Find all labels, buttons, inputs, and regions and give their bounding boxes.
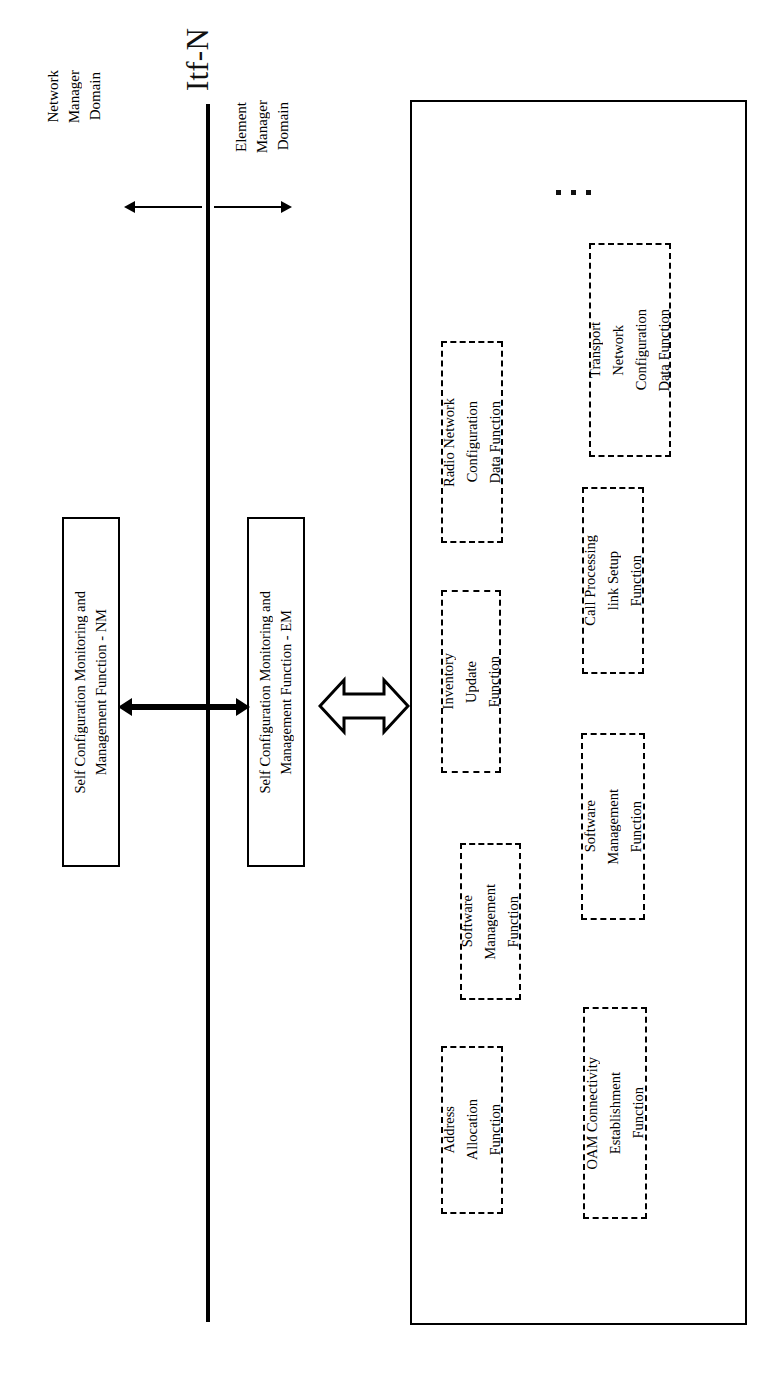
fn-line-2: link Setup bbox=[602, 551, 625, 610]
fn-line-1: Radio Network bbox=[438, 398, 461, 487]
arrow-head-right-icon bbox=[236, 698, 250, 716]
call-processing-link-setup-function-box: Call Processing link Setup Function bbox=[582, 487, 644, 674]
software-management-function-box-2: Software Management Function bbox=[581, 733, 645, 920]
arrow-head-right-icon bbox=[281, 201, 292, 213]
fn-line-2: Management bbox=[479, 884, 502, 960]
ellipsis-dot bbox=[556, 190, 561, 195]
em-domain-line-3: Domain bbox=[273, 102, 294, 150]
fn-line-3: Function bbox=[625, 801, 648, 853]
fn-line-2: Update bbox=[460, 661, 483, 703]
network-manager-domain-arrow-icon bbox=[124, 200, 202, 214]
self-configuration-monitoring-management-nm-box: Self Configuration Monitoring and Manage… bbox=[62, 517, 120, 867]
nm-box-line-2: Management Function - NM bbox=[91, 609, 112, 775]
radio-network-configuration-data-function-box: Radio Network Configuration Data Functio… bbox=[441, 341, 503, 543]
network-manager-domain-label: Network Manager Domain bbox=[43, 70, 106, 123]
em-domain-line-2: Manager bbox=[252, 100, 273, 153]
fn-line-1: Call Processing bbox=[579, 535, 602, 626]
inventory-update-function-box: Inventory Update Function bbox=[441, 590, 501, 773]
arrow-shaft bbox=[128, 704, 240, 710]
em-domain-line-1: Element bbox=[231, 102, 252, 152]
em-box-label: Self Configuration Monitoring and Manage… bbox=[249, 519, 303, 865]
fn-line-3: Function bbox=[483, 656, 506, 708]
fn-line-3: Data Function bbox=[484, 401, 507, 484]
fn-line-3: Function bbox=[625, 555, 648, 607]
em-box-line-2: Management Function - EM bbox=[276, 610, 297, 775]
fn-line-1: Inventory bbox=[437, 653, 460, 709]
element-manager-domain-arrow-icon bbox=[214, 200, 292, 214]
itf-n-label: Itf-N bbox=[180, 28, 217, 91]
nm-domain-line-2: Manager bbox=[64, 70, 85, 123]
nm-domain-line-1: Network bbox=[43, 70, 64, 123]
ellipsis-dots bbox=[556, 190, 591, 195]
arrow-shaft bbox=[132, 206, 202, 208]
nm-domain-line-3: Domain bbox=[85, 72, 106, 120]
ellipsis-dot bbox=[571, 190, 576, 195]
fn-line-1: Address bbox=[438, 1106, 461, 1154]
fn-line-4: Data Function bbox=[653, 309, 676, 392]
fn-line-2: Establishment bbox=[604, 1072, 627, 1154]
element-manager-domain-label: Element Manager Domain bbox=[231, 100, 294, 153]
nm-em-connector-arrow-icon bbox=[118, 698, 250, 716]
fn-line-2: Allocation bbox=[461, 1099, 484, 1160]
fn-line-3: Function bbox=[627, 1087, 650, 1139]
software-management-function-box-1: Software Management Function bbox=[460, 843, 521, 1000]
arrow-shaft bbox=[214, 206, 284, 208]
fn-line-1: Transport bbox=[584, 322, 607, 378]
fn-line-1: Software bbox=[456, 895, 479, 947]
transport-network-configuration-data-function-box: Transport Network Configuration Data Fun… bbox=[589, 243, 671, 457]
em-ne-connector-hollow-arrow-icon bbox=[318, 672, 410, 740]
fn-line-2: Management bbox=[602, 789, 625, 865]
self-configuration-monitoring-management-em-box: Self Configuration Monitoring and Manage… bbox=[247, 517, 305, 867]
fn-line-1: Software bbox=[579, 800, 602, 852]
fn-line-2: Configuration bbox=[461, 401, 484, 482]
fn-line-3: Configuration bbox=[630, 309, 653, 390]
fn-line-1: OAM Connectivity bbox=[581, 1057, 604, 1169]
em-box-line-1: Self Configuration Monitoring and bbox=[255, 591, 276, 794]
ellipsis-dot bbox=[586, 190, 591, 195]
fn-line-3: Function bbox=[484, 1104, 507, 1156]
nm-box-label: Self Configuration Monitoring and Manage… bbox=[64, 519, 118, 865]
fn-line-2: Network bbox=[607, 325, 630, 376]
fn-line-3: Function bbox=[502, 896, 525, 948]
address-allocation-function-box: Address Allocation Function bbox=[441, 1046, 503, 1214]
nm-box-line-1: Self Configuration Monitoring and bbox=[70, 591, 91, 794]
oam-connectivity-establishment-function-box: OAM Connectivity Establishment Function bbox=[583, 1007, 647, 1219]
